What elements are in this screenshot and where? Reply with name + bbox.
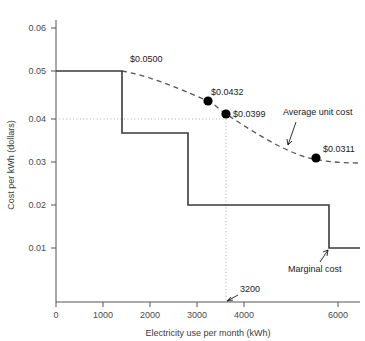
marginal-cost-annotation: Marginal cost: [288, 250, 342, 274]
y-tick-label-1: 0.02: [28, 200, 46, 210]
y-tick-label-0: 0.01: [28, 243, 46, 253]
average-unit-cost-annotation: Average unit cost: [283, 107, 353, 145]
x-axis-ticks: 0 1000 2000 3000 4000 6000: [53, 302, 348, 320]
y-tick-label-3: 0.04: [28, 114, 46, 124]
x-tick-label-3: 3000: [187, 310, 207, 320]
usage-callout-annotation: 3200: [227, 284, 260, 301]
marginal-cost-label: Marginal cost: [288, 264, 342, 274]
x-tick-label-2: 2000: [140, 310, 160, 320]
electricity-cost-chart: 0.01 0.02 0.03 0.04 0.05 0.06 0 1000 200…: [0, 0, 365, 341]
average-unit-cost-label: Average unit cost: [283, 107, 353, 117]
data-point-marker: [221, 109, 230, 118]
y-axis-title: Cost per kWh (dollars): [6, 120, 16, 210]
x-tick-label-5: 6000: [328, 310, 348, 320]
data-point-label-0311: $0.0311: [323, 144, 355, 154]
data-point-marker: [203, 96, 212, 105]
data-point-label-0432: $0.0432: [211, 87, 244, 97]
y-axis-ticks: 0.01 0.02 0.03 0.04 0.05 0.06: [28, 23, 56, 253]
y-tick-label-2: 0.03: [28, 157, 46, 167]
x-tick-label-4: 4000: [234, 310, 254, 320]
x-tick-label-0: 0: [53, 310, 58, 320]
guide-lines: [56, 119, 226, 302]
x-axis-title: Electricity use per month (kWh): [145, 328, 270, 338]
y-tick-label-4: 0.05: [28, 66, 46, 76]
data-point-label-0500: $0.0500: [130, 54, 163, 64]
usage-callout-label: 3200: [240, 284, 260, 294]
y-tick-label-5: 0.06: [28, 23, 46, 33]
data-point-label-0399: $0.0399: [233, 109, 266, 119]
chart-canvas: 0.01 0.02 0.03 0.04 0.05 0.06 0 1000 200…: [0, 0, 365, 341]
x-tick-label-1: 1000: [93, 310, 113, 320]
data-point-marker: [311, 153, 320, 162]
